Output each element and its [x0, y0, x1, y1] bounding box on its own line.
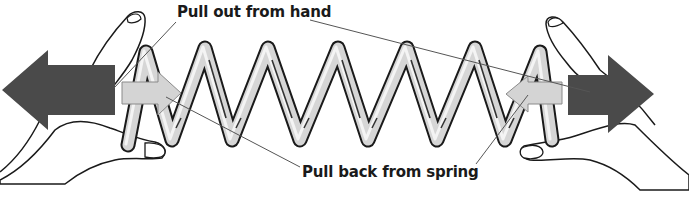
label-pull-back-from-spring: Pull back from spring — [302, 163, 479, 181]
leader-pull-back-left — [166, 97, 300, 167]
label-pull-out-from-hand: Pull out from hand — [177, 3, 331, 21]
spring — [126, 47, 552, 145]
spring-force-diagram: Pull out from hand Pull back from spring — [0, 0, 689, 206]
